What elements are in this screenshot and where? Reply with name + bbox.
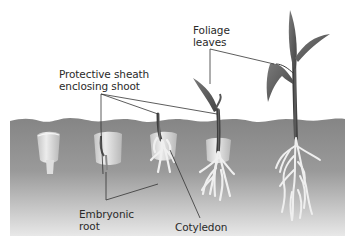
label-cotyledon-line1: Cotyledon bbox=[175, 221, 227, 233]
label-cotyledon: Cotyledon bbox=[175, 221, 227, 233]
germination-diagram: Foliage leaves Protective sheath enclosi… bbox=[0, 0, 352, 249]
leader-sheath-2 bbox=[101, 94, 158, 114]
leader-sheath-3 bbox=[101, 94, 217, 114]
label-sheath-line2: enclosing shoot bbox=[59, 80, 149, 92]
label-protective-sheath: Protective sheath enclosing shoot bbox=[59, 68, 149, 92]
label-foliage-line1: Foliage bbox=[193, 24, 230, 36]
label-embryonic-line2: root bbox=[79, 220, 134, 232]
label-embryonic-line1: Embryonic bbox=[79, 208, 134, 220]
leader-foliage-2 bbox=[210, 49, 274, 64]
label-foliage-line2: leaves bbox=[193, 36, 230, 48]
diagram-canvas bbox=[0, 0, 352, 249]
label-embryonic-root: Embryonic root bbox=[79, 208, 134, 232]
label-sheath-line1: Protective sheath bbox=[59, 68, 149, 80]
label-foliage-leaves: Foliage leaves bbox=[193, 24, 230, 48]
